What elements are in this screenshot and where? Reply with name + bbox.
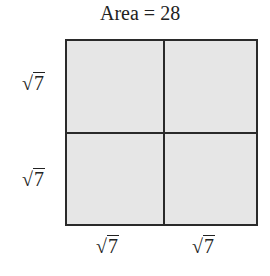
side-label-left-bottom: √7 <box>22 168 45 191</box>
side-label-bottom-right: √7 <box>192 235 215 258</box>
area-title: Area = 28 <box>100 2 230 25</box>
square-diagram <box>65 39 258 226</box>
side-label-left-top: √7 <box>22 72 45 95</box>
horizontal-divider <box>67 132 256 134</box>
side-label-bottom-left: √7 <box>96 235 119 258</box>
